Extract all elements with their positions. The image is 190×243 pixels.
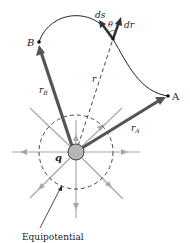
r-b-vector: [41, 52, 72, 146]
label-dr: dr: [124, 20, 135, 30]
equipotential-pointer: [40, 187, 61, 228]
point-a-dot: [166, 94, 170, 98]
label-q: q: [55, 152, 62, 163]
point-b-dot: [37, 40, 41, 44]
path-point-dot: [111, 37, 114, 40]
r-a-vector: [82, 100, 160, 148]
r-b-arrowhead-icon: [36, 45, 45, 56]
electric-potential-diagram: B A ds θ dr r rB rA q Equipotential: [0, 0, 190, 243]
label-theta: θ: [108, 20, 113, 29]
diagram-canvas: B A ds θ dr r rB rA q Equipotential: [0, 0, 190, 243]
label-ds: ds: [95, 10, 106, 20]
label-equipotential: Equipotential: [22, 232, 84, 242]
label-r-a: rA: [131, 123, 140, 134]
label-r-b: rB: [39, 85, 48, 96]
charge-q: [68, 144, 84, 160]
label-b: B: [26, 37, 34, 48]
label-r: r: [92, 74, 97, 84]
label-a: A: [171, 91, 180, 102]
